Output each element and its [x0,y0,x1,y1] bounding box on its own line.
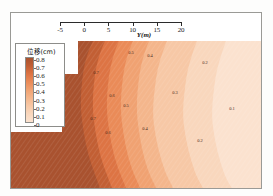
colorbar-tick-mark [34,84,36,85]
legend-box: 位移(cm) 0.80.70.60.50.40.30.20.10 [15,43,65,127]
x-axis-tick-label: 20 [178,26,185,34]
contour-line-label: 0.4 [142,126,148,131]
x-axis-tick-label: 10 [129,26,136,34]
x-axis-tick-label: -5 [57,26,62,34]
contour-figure: 0.70.70.60.60.50.50.40.40.30.20.20.1 -50… [0,0,273,196]
colorbar-tick-mark [34,117,36,118]
colorbar-tick-mark [34,101,36,102]
colorbar-tick-mark [34,76,36,77]
x-axis-tick-label: 5 [107,26,110,34]
contour-line-label: 0.6 [105,130,111,135]
contour-line-label: 0.7 [90,116,96,121]
colorbar-tick-label: 0.2 [36,106,45,113]
colorbar-tick-label: 0.7 [36,65,45,72]
x-axis-tick-label: 0 [83,26,86,34]
colorbar-tick-mark [34,60,36,61]
contour-line-label: 0.3 [172,90,178,95]
contour-line-label: 0.5 [128,50,134,55]
x-axis-line [60,22,181,23]
colorbar-tick-label: 0 [36,122,40,129]
colorbar-tick-label: 0.5 [36,81,45,88]
colorbar-tick-label: 0.3 [36,98,45,105]
colorbar-tick-label: 0.1 [36,114,45,121]
contour-line-label: 0.5 [123,103,129,108]
contour-line-label: 0.2 [202,60,208,65]
contour-line-label: 0.4 [147,53,153,58]
colorbar-tick-mark [34,68,36,69]
colorbar-tick-label: 0.6 [36,73,45,80]
contour-line-label: 0.2 [197,138,203,143]
colorbar-tick-mark [34,92,36,93]
x-axis-tick-label: 15 [153,26,160,34]
colorbar-tick-mark [34,125,36,126]
contour-line-label: 0.1 [229,106,235,111]
colorbar [25,57,34,123]
contour-line-label: 0.6 [109,93,115,98]
contour-line-label: 0.7 [93,70,99,75]
colorbar-tick-label: 0.4 [36,89,45,96]
colorbar-tick-mark [34,109,36,110]
colorbar-tick-label: 0.8 [36,57,45,64]
x-axis-label: Y(m) [137,31,151,39]
colorbar-tick-labels: 0.80.70.60.50.40.30.20.10 [36,55,64,125]
